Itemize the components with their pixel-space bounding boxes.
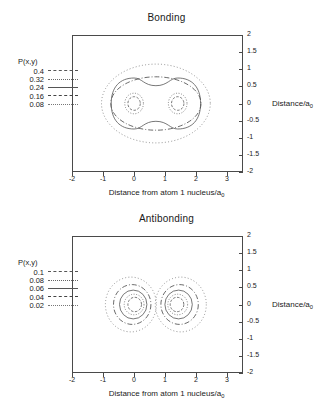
ytick-bonding-7 [239, 155, 243, 156]
xticklabel-antibonding-0: -2 [62, 376, 82, 383]
ytick-bonding-6 [239, 138, 243, 139]
legend-line-sample-finedot-icon [48, 104, 78, 106]
contour-level-0.08-left [124, 294, 144, 315]
legend-line-sample-dotted-icon [48, 79, 78, 81]
legend-title-antibonding: P(x,y) [18, 258, 78, 267]
yticklabel-antibonding-8: -2 [247, 368, 253, 375]
ytick-bonding-8 [239, 172, 243, 173]
legend-value: 0.02 [18, 301, 48, 310]
yticklabel-antibonding-5: -0.5 [247, 317, 259, 324]
ytick-antibonding-3 [239, 287, 243, 288]
contour-plot-antibonding [72, 236, 243, 373]
xticklabel-antibonding-4: 2 [186, 376, 206, 383]
legend-line-sample-solid-icon [48, 288, 78, 290]
contour-level-0.16 [111, 77, 201, 130]
xticklabel-bonding-3: 1 [155, 175, 175, 182]
yticklabel-bonding-5: -0.5 [247, 116, 259, 123]
legend-item: 0.08 [18, 101, 78, 109]
contour-plot-bonding [72, 35, 243, 172]
contour-level-0.1-right [170, 297, 184, 311]
xticklabel-antibonding-3: 1 [155, 376, 175, 383]
legend-value: 0.08 [18, 100, 48, 109]
legend-line-sample-dashed-icon [48, 70, 78, 72]
ytick-bonding-5 [239, 121, 243, 122]
axis-title-x-bonding-text: Distance from atom 1 nucleus/a [109, 188, 222, 197]
legend-antibonding: P(x,y) 0.1 0.08 0.06 0.04 0.02 [18, 258, 78, 310]
xticklabel-bonding-2: 0 [124, 175, 144, 182]
yticklabel-antibonding-3: 0.5 [247, 282, 257, 289]
legend-item: 0.02 [18, 302, 78, 310]
ytick-antibonding-7 [239, 356, 243, 357]
ytick-bonding-0 [239, 35, 243, 36]
chart-title-antibonding: Antibonding [0, 213, 333, 224]
yticklabel-antibonding-1: 1.5 [247, 248, 257, 255]
legend-line-sample-dashdot-icon [48, 95, 78, 97]
contour-level-0.4-right [172, 97, 184, 111]
legend-line-sample-dashed-icon [48, 271, 78, 273]
axis-title-x-bonding-sub: 0 [221, 192, 224, 198]
contour-level-0.06-left [120, 290, 147, 319]
xticklabel-bonding-0: -2 [62, 175, 82, 182]
yticklabel-bonding-3: 0.5 [247, 81, 257, 88]
contour-level-0.4-left [128, 97, 140, 111]
yticklabel-antibonding-2: 1 [247, 265, 251, 272]
axis-title-x-antibonding-sub: 0 [221, 393, 224, 399]
axis-title-y-antibonding: Distance/a0 [272, 300, 313, 310]
legend-title-bonding: P(x,y) [18, 57, 78, 66]
axis-title-x-antibonding: Distance from atom 1 nucleus/a0 [0, 389, 333, 399]
legend-line-sample-solid-icon [48, 87, 78, 89]
ytick-antibonding-2 [239, 270, 243, 271]
contour-level-0.1-left [128, 297, 142, 311]
ytick-bonding-1 [239, 52, 243, 53]
xticklabel-antibonding-1: -1 [93, 376, 113, 383]
axis-title-x-antibonding-text: Distance from atom 1 nucleus/a [109, 389, 222, 398]
yticklabel-bonding-0: 2 [247, 30, 251, 37]
ytick-antibonding-0 [239, 236, 243, 237]
yticklabel-antibonding-7: -1.5 [247, 351, 259, 358]
contour-level-0.08 [102, 64, 211, 143]
axis-title-y-antibonding-sub: 0 [310, 304, 313, 310]
ytick-bonding-4 [239, 104, 243, 105]
axis-title-y-bonding-text: Distance/a [272, 99, 310, 108]
yticklabel-antibonding-6: -1 [247, 334, 253, 341]
xticklabel-bonding-5: 3 [217, 175, 237, 182]
ytick-antibonding-8 [239, 373, 243, 374]
legend-line-sample-dotted-icon [48, 280, 78, 282]
yticklabel-bonding-7: -1.5 [247, 150, 259, 157]
legend-line-sample-dashdot-icon [48, 296, 78, 298]
xticklabel-antibonding-2: 0 [124, 376, 144, 383]
xticklabel-antibonding-5: 3 [217, 376, 237, 383]
legend-bonding: P(x,y) 0.4 0.32 0.24 0.16 0.08 [18, 57, 78, 109]
yticklabel-bonding-6: -1 [247, 133, 253, 140]
axis-title-y-antibonding-text: Distance/a [272, 300, 310, 309]
ytick-bonding-2 [239, 69, 243, 70]
yticklabel-bonding-4: 0 [247, 99, 251, 106]
ytick-antibonding-4 [239, 305, 243, 306]
yticklabel-bonding-2: 1 [247, 64, 251, 71]
contour-level-0.02-left [105, 277, 156, 332]
ytick-bonding-3 [239, 86, 243, 87]
axis-title-y-bonding-sub: 0 [310, 103, 313, 109]
ytick-antibonding-6 [239, 339, 243, 340]
ytick-antibonding-5 [239, 322, 243, 323]
xticklabel-bonding-4: 2 [186, 175, 206, 182]
axis-title-y-bonding: Distance/a0 [272, 99, 313, 109]
chart-title-bonding: Bonding [0, 12, 333, 23]
ytick-antibonding-1 [239, 253, 243, 254]
yticklabel-antibonding-0: 2 [247, 231, 251, 238]
xticklabel-bonding-1: -1 [93, 175, 113, 182]
contour-level-0.06-right [165, 290, 192, 319]
axis-title-x-bonding: Distance from atom 1 nucleus/a0 [0, 188, 333, 198]
panel-bonding: Bonding -2 -1 0 1 2 3 2 1.5 1 0.5 0 -0.5… [0, 0, 333, 201]
yticklabel-antibonding-4: 0 [247, 300, 251, 307]
yticklabel-bonding-8: -2 [247, 167, 253, 174]
panel-antibonding: Antibonding -2 -1 0 1 2 3 2 1.5 1 0.5 0 … [0, 201, 333, 402]
yticklabel-bonding-1: 1.5 [247, 47, 257, 54]
legend-line-sample-finedot-icon [48, 305, 78, 307]
